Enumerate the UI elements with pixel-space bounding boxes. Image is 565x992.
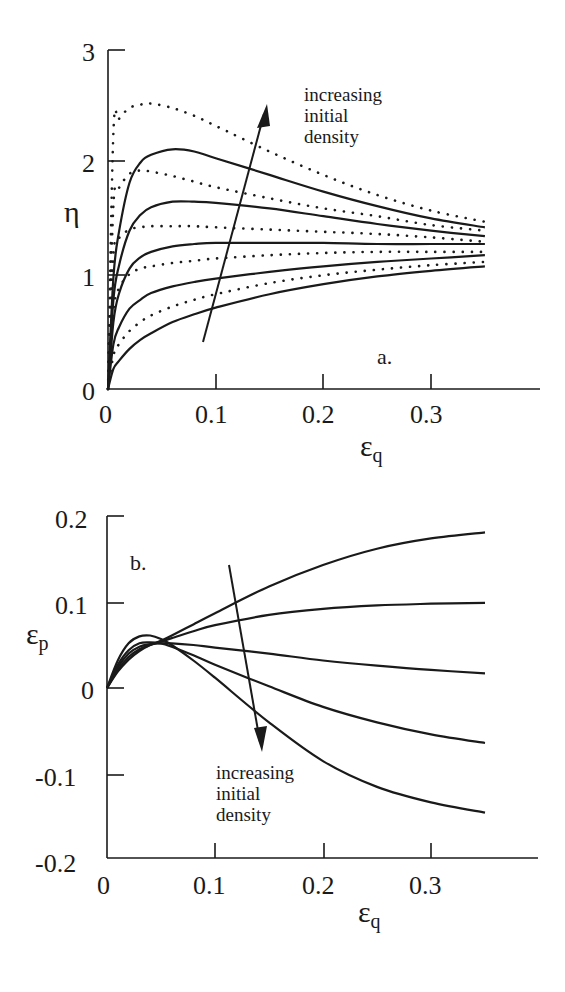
panel-b-y-label-main: ε [26,617,39,650]
panel-b-y-label-sub: p [39,632,49,655]
panel-b-ytick-label--0.1: -0.1 [35,763,76,792]
panel-a-label: a. [377,344,392,369]
panel-a-x-label-sub: q [373,444,383,467]
panel-a-x-label: εq [360,429,383,467]
panel-b-xtick-label-0.1: 0.1 [193,871,226,900]
panel-a-xtick-label-0.3: 0.3 [410,400,443,429]
arrow-head-icon [257,104,270,128]
panel-a-annotation-line1: increasing [304,84,383,105]
panel-b-curve-2 [107,603,485,688]
panel-b-curve-3 [107,643,485,688]
panel-a-x-label-main: ε [360,429,373,462]
panel-a-ytick-label-0: 0 [82,377,95,406]
panel-b-curves [107,532,485,812]
panel-b-curve-1 [107,532,485,688]
panel-b-x-label-main: ε [358,895,371,928]
panel-a-annotation-line3: density [304,126,359,147]
panel-b-arrow [229,565,267,752]
panel-b-ytick-label--0.2: -0.2 [35,849,76,878]
panel-a-ytick-label-3: 3 [82,38,95,67]
panel-b-ytick-label-0.2: 0.2 [55,505,88,534]
panel-b-xtick-label-0: 0 [97,871,110,900]
panel-a: 0 1 2 3 0 0.1 0.2 0.3 η εq a. increasing… [64,38,540,467]
panel-b-xtick-label-0.2: 0.2 [302,871,335,900]
panel-b-label: b. [130,550,147,575]
panel-b-annotation-line3: density [216,804,271,825]
panel-a-arrow [203,104,270,342]
panel-a-annotation-line2: initial [304,105,348,126]
panel-a-xtick-label-0.1: 0.1 [195,400,228,429]
panel-a-xtick-label-0.2: 0.2 [302,400,335,429]
arrow-head-icon [254,726,267,752]
panel-b-xtick-label-0.3: 0.3 [409,871,442,900]
panel-a-ytick-label-2: 2 [82,149,95,178]
panel-a-xtick-label-0: 0 [99,400,112,429]
panel-b-annotation-line2: initial [216,783,260,804]
panel-b-axes [107,516,538,858]
panel-a-curve-10 [108,103,485,389]
panel-a-curve-7 [108,201,485,389]
panel-b-ytick-label-0: 0 [81,676,94,705]
figure: 0 1 2 3 0 0.1 0.2 0.3 η εq a. increasing… [0,0,565,992]
panel-b-x-label-sub: q [371,910,381,933]
panel-a-y-label: η [64,195,80,228]
panel-b-x-label: εq [358,895,381,933]
panel-b-ytick-label-0.1: 0.1 [55,591,88,620]
panel-a-curve-3 [108,255,485,389]
panel-b-y-label: εp [26,617,49,655]
panel-a-ytick-label-1: 1 [82,263,95,292]
panel-b-annotation-line1: increasing [216,762,295,783]
panel-a-curves [108,103,485,389]
panel-b: 0.2 0.1 0 -0.1 -0.2 0 0.1 0.2 0.3 εp εq … [26,505,538,933]
panel-b-curve-5 [107,635,485,812]
panel-a-curve-6 [108,226,485,389]
panel-a-curve-4 [108,252,485,389]
panel-a-curve-1 [108,266,485,389]
